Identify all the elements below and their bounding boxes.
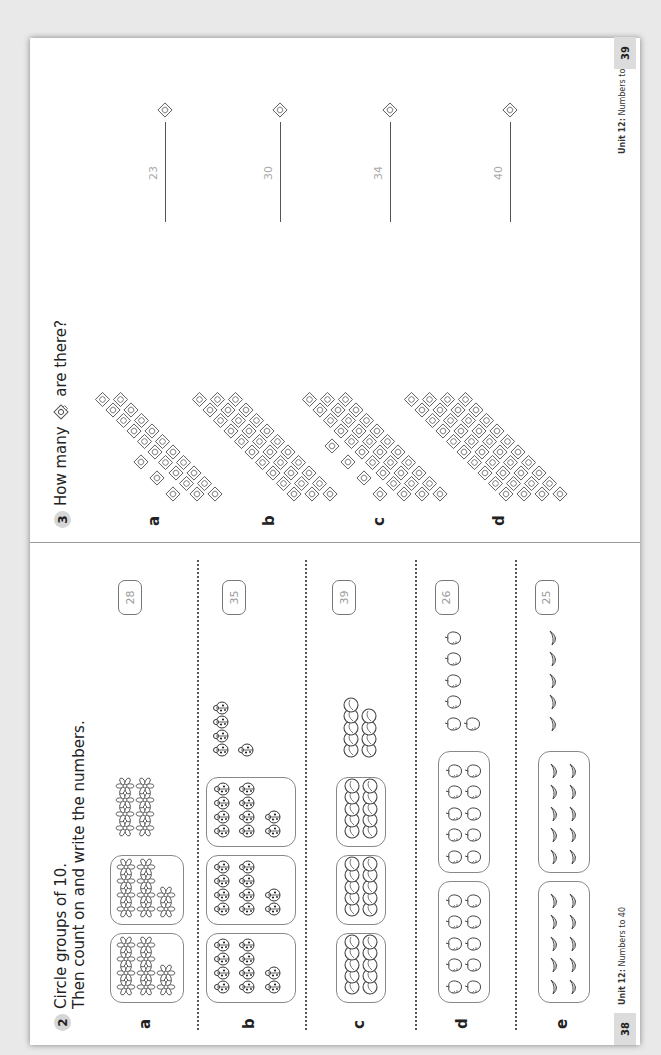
page-39: 3 How many are there? a23b30c34d40 Unit … (30, 37, 640, 543)
banana-icon (545, 978, 563, 996)
banana-icon (564, 762, 582, 780)
question-number-badge: 3 (54, 511, 71, 528)
banana-icon (564, 935, 582, 953)
apple-icon (444, 650, 462, 668)
ladybird-icon (213, 858, 231, 876)
apple-icon (445, 805, 463, 823)
ladybird-icon (212, 699, 230, 717)
page-number-39: 39 (614, 37, 636, 69)
loose-items (336, 697, 384, 765)
banana-icon (564, 892, 582, 910)
ladybird-icon (264, 808, 282, 826)
item-letter: a (145, 516, 163, 526)
exercise-row-c: c39 (310, 543, 410, 1045)
apple-icon (463, 715, 481, 733)
cube-icon (157, 102, 173, 118)
banana-icon (544, 650, 562, 668)
banana-icon (545, 805, 563, 823)
page-38: 2 Circle groups of 10. Then count on and… (30, 543, 640, 1045)
apple-icon (445, 826, 463, 844)
answer-box[interactable]: 28 (118, 580, 142, 615)
page-footer: Unit 12: Numbers to 40 (618, 56, 627, 154)
ladybird-icon (264, 886, 282, 904)
group-of-ten (110, 933, 184, 1003)
ladybird-icon (264, 964, 282, 982)
banana-icon (545, 956, 563, 974)
apple-icon (464, 935, 482, 953)
apple-icon (464, 848, 482, 866)
apple-icon (445, 978, 463, 996)
answer-line[interactable] (510, 122, 511, 222)
base-ten-cubes (450, 302, 560, 502)
ladybird-icon (213, 936, 231, 954)
item-letter: a (136, 1019, 154, 1029)
apple-icon (445, 935, 463, 953)
flower-icon (117, 858, 135, 876)
marble-icon (361, 777, 379, 795)
banana-icon (564, 783, 582, 801)
marble-icon (360, 707, 378, 725)
apple-icon (464, 978, 482, 996)
instruction-line-2: Then count on and write the numbers. (70, 720, 88, 1009)
ladybird-icon (238, 936, 256, 954)
apple-icon (445, 848, 463, 866)
dotted-divider (197, 560, 199, 1030)
apple-icon (444, 672, 462, 690)
group-of-ten (206, 855, 296, 925)
group-of-ten (110, 855, 184, 925)
footer-unit: Unit 12: (618, 969, 627, 1005)
flower-icon (157, 886, 175, 904)
apple-icon (464, 805, 482, 823)
apple-icon (464, 762, 482, 780)
answer-value: 23 (147, 166, 160, 180)
ladybird-icon (213, 780, 231, 798)
flower-icon (157, 964, 175, 982)
base-ten-cubes (330, 302, 440, 502)
answer-box[interactable]: 39 (332, 580, 356, 615)
banana-icon (545, 783, 563, 801)
ladybird-icon (237, 741, 255, 759)
answer-line[interactable] (390, 122, 391, 222)
banana-icon (564, 848, 582, 866)
item-letter: c (370, 517, 388, 526)
banana-icon (545, 762, 563, 780)
item-letter: d (453, 1018, 471, 1029)
apple-icon (444, 693, 462, 711)
answer-box[interactable]: 25 (535, 580, 559, 615)
answer-line[interactable] (165, 122, 166, 222)
banana-icon (545, 935, 563, 953)
banana-icon (544, 629, 562, 647)
flower-icon (137, 936, 155, 954)
item-letter: d (490, 515, 508, 526)
flower-icon (117, 936, 135, 954)
answer-value: 34 (372, 166, 385, 180)
flower-icon (136, 777, 154, 795)
apple-icon (445, 913, 463, 931)
answer-box[interactable]: 26 (435, 580, 459, 615)
loose-items (538, 619, 588, 739)
loose-items (110, 775, 182, 843)
group-of-ten (438, 751, 490, 873)
exercise-row-d: d26 (415, 543, 510, 1045)
marble-icon (343, 777, 361, 795)
dotted-divider (305, 560, 307, 1030)
group-of-ten (206, 933, 296, 1003)
footer-unit: Unit 12: (618, 118, 627, 154)
banana-icon (564, 913, 582, 931)
answer-value: 40 (492, 166, 505, 180)
exercise-row-a: a23 (105, 37, 215, 542)
banana-icon (544, 672, 562, 690)
apple-icon (464, 783, 482, 801)
answer-value: 30 (262, 166, 275, 180)
group-of-ten (206, 777, 296, 847)
answer-box[interactable]: 35 (222, 580, 246, 615)
answer-line[interactable] (280, 122, 281, 222)
instruction-line-1: Circle groups of 10. (52, 863, 70, 1009)
apple-icon (464, 913, 482, 931)
group-of-ten (438, 881, 490, 1003)
marble-icon (343, 933, 361, 951)
exercise-row-d: d40 (450, 37, 560, 542)
apple-icon (445, 783, 463, 801)
exercise-row-b: b30 (220, 37, 330, 542)
banana-icon (545, 848, 563, 866)
